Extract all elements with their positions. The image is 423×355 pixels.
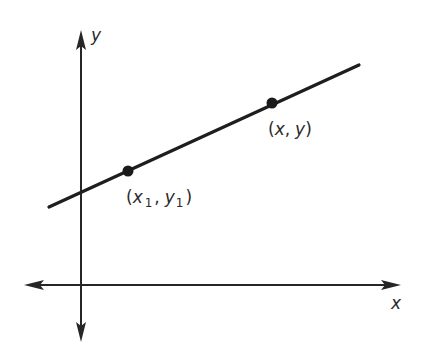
point-x1-y1-dot <box>123 166 134 177</box>
linear-function-line <box>49 65 359 207</box>
point-x-y-label: (x,y) <box>268 119 312 139</box>
y-axis-label: y <box>90 25 102 45</box>
x-axis-label: x <box>390 293 402 313</box>
coordinate-diagram: y x (x,y) (x1,y1) <box>0 0 423 355</box>
point-x-y-dot <box>267 98 278 109</box>
y-axis <box>76 30 86 342</box>
point-x1-y1-label: (x1,y1) <box>126 187 192 210</box>
